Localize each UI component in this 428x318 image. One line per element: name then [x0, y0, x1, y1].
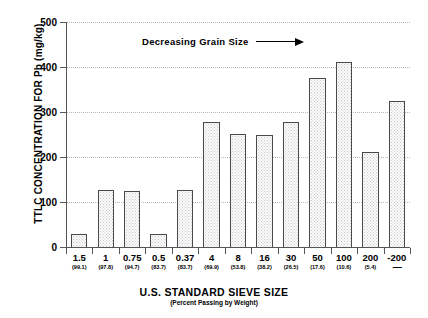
- bar-slot: [92, 23, 118, 247]
- y-axis-tick-label: 300: [40, 106, 57, 117]
- x-axis-label-group: 0.5(83.7): [145, 252, 171, 271]
- x-axis-tick-label: 16: [251, 252, 277, 263]
- y-axis-title: TTLC CONCENTRATION FOR Pb (mg/kg): [33, 4, 44, 244]
- x-axis-tick-label: 0.37: [172, 252, 198, 263]
- chart-figure: TTLC CONCENTRATION FOR Pb (mg/kg) 010020…: [0, 0, 428, 318]
- bar-slot: [198, 23, 224, 247]
- x-axis-tick-sublabel: (83.7): [145, 263, 171, 271]
- bar: [71, 234, 87, 247]
- x-axis-tick-sublabel: (97.8): [92, 263, 118, 271]
- bar: [124, 191, 140, 247]
- x-axis-tick-sublabel: (83.7): [172, 263, 198, 271]
- x-axis-title-sub: (Percent Passing by Weight): [0, 299, 428, 306]
- bar-slot: [225, 23, 251, 247]
- x-axis-tick-label: 30: [278, 252, 304, 263]
- x-axis-tick-sublabel: (94.7): [119, 263, 145, 271]
- x-axis-tick-sublabel: —: [384, 263, 410, 271]
- x-axis-tick-sublabel: (5.4): [357, 263, 383, 271]
- annotation-label: Decreasing Grain Size: [142, 36, 249, 47]
- x-axis-label-group: 16(38.2): [251, 252, 277, 271]
- x-axis-tick-label: 8: [225, 252, 251, 263]
- x-axis-tick-label: 200: [357, 252, 383, 263]
- x-axis-title-main: U.S. STANDARD SIEVE SIZE: [0, 286, 428, 298]
- x-axis-tick-sublabel: (69.9): [198, 263, 224, 271]
- annotation-decreasing-grain-size: Decreasing Grain Size: [142, 36, 304, 47]
- arrow-right-icon: [256, 38, 304, 46]
- x-axis-tick-sublabel: (26.5): [278, 263, 304, 271]
- x-axis-label-group: 1.5(99.1): [66, 252, 92, 271]
- bar: [283, 122, 299, 246]
- bar: [177, 190, 193, 246]
- x-axis-title: U.S. STANDARD SIEVE SIZE (Percent Passin…: [0, 286, 428, 306]
- plot-area: 0100200300400500: [66, 22, 410, 248]
- x-axis-label-group: 100(10.6): [331, 252, 357, 271]
- y-axis-tick-label: 0: [51, 241, 57, 252]
- y-axis-tick-label: 100: [40, 196, 57, 207]
- y-axis-tick-label: 200: [40, 151, 57, 162]
- bar: [98, 190, 114, 246]
- bar: [230, 134, 246, 246]
- x-axis-tick-sublabel: (38.2): [251, 263, 277, 271]
- bar: [336, 62, 352, 246]
- x-axis-tick-label: 1.5: [66, 252, 92, 263]
- bar: [389, 101, 405, 247]
- y-axis-tick-label: 500: [40, 17, 57, 28]
- x-axis-tick-label: 100: [331, 252, 357, 263]
- x-axis-tick-label: 0.5: [145, 252, 171, 263]
- bar-slot: [145, 23, 171, 247]
- x-axis-tick-labels: 1.5(99.1)1(97.8)0.75(94.7)0.5(83.7)0.37(…: [66, 252, 410, 271]
- x-axis-label-group: 200(5.4): [357, 252, 383, 271]
- x-axis-tick-label: 0.75: [119, 252, 145, 263]
- y-axis-tick-label: 400: [40, 61, 57, 72]
- x-axis-tick-label: 1: [92, 252, 118, 263]
- x-axis-label-group: 50(17.6): [304, 252, 330, 271]
- bar-slot: [251, 23, 277, 247]
- bar-slot: [357, 23, 383, 247]
- bar-series: [66, 23, 410, 247]
- x-axis-tick-sublabel: (17.6): [304, 263, 330, 271]
- bar: [203, 122, 219, 246]
- bar-slot: [304, 23, 330, 247]
- x-axis-tick-sublabel: (53.8): [225, 263, 251, 271]
- bar-slot: [66, 23, 92, 247]
- x-axis-label-group: 0.75(94.7): [119, 252, 145, 271]
- bar-slot: [119, 23, 145, 247]
- bar-slot: [331, 23, 357, 247]
- x-axis-tick: [410, 248, 411, 254]
- x-axis-label-group: 4(69.9): [198, 252, 224, 271]
- bar-slot: [278, 23, 304, 247]
- x-axis-tick-sublabel: (99.1): [66, 263, 92, 271]
- bar: [150, 234, 166, 246]
- x-axis-tick-sublabel: (10.6): [331, 263, 357, 271]
- x-axis-label-group: 0.37(83.7): [172, 252, 198, 271]
- bar-slot: [172, 23, 198, 247]
- bar: [309, 78, 325, 247]
- bar: [362, 152, 378, 246]
- x-axis-label-group: 30(26.5): [278, 252, 304, 271]
- x-axis-label-group: -200—: [384, 252, 410, 271]
- bar-slot: [384, 23, 410, 247]
- x-axis-tick-label: 50: [304, 252, 330, 263]
- bar: [256, 135, 272, 246]
- x-axis-tick-label: 4: [198, 252, 224, 263]
- x-axis-label-group: 1(97.8): [92, 252, 118, 271]
- x-axis-label-group: 8(53.8): [225, 252, 251, 271]
